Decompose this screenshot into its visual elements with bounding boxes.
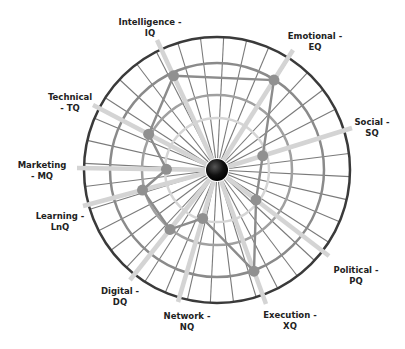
axis-label: Emotional - EQ: [288, 31, 343, 53]
data-point: [197, 213, 208, 224]
data-point: [251, 194, 262, 205]
data-point: [268, 75, 279, 86]
data-point: [257, 150, 268, 161]
data-point: [137, 185, 148, 196]
center-hub-icon: [205, 158, 229, 182]
axis-label: Digital - DQ: [101, 286, 139, 308]
data-point: [164, 224, 175, 235]
axis-label: Learning - LnQ: [36, 211, 85, 233]
data-point: [143, 129, 154, 140]
axis-label: Intelligence - IQ: [119, 17, 182, 39]
data-point: [161, 164, 172, 175]
data-point: [168, 70, 179, 81]
hub-ball: [206, 159, 228, 181]
axis-label: Marketing - MQ: [18, 160, 67, 182]
thin-spoke: [217, 37, 224, 170]
data-point: [248, 266, 259, 277]
axis-label: Execution - XQ: [263, 310, 317, 332]
thin-spoke: [217, 170, 278, 288]
axis-label: Social - SQ: [354, 117, 389, 139]
axis-label: Technical - TQ: [48, 92, 92, 114]
thin-spoke: [217, 170, 350, 177]
axis-label: Political - PQ: [333, 265, 378, 287]
axis-spoke: [77, 168, 217, 170]
axis-label: Network - NQ: [164, 311, 211, 333]
